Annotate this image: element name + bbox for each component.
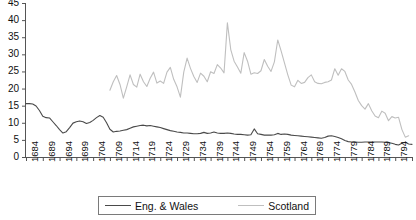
series-line-eng-wales [26, 104, 412, 145]
y-tick-label: 15 [1, 101, 19, 111]
x-tick-label: 1779 [349, 141, 358, 162]
y-tick-label: 0 [1, 152, 19, 162]
x-tick-label: 1789 [382, 141, 391, 162]
x-tick-label: 1739 [215, 141, 224, 162]
x-tick-label: 1684 [30, 141, 39, 162]
chart-legend: Eng. & WalesScotland [98, 196, 316, 215]
x-tick-label: 1734 [198, 141, 207, 162]
x-tick-label: 1729 [181, 141, 190, 162]
x-tick-label: 1714 [131, 141, 140, 162]
x-tick-label: 1689 [47, 141, 56, 162]
series-line-scotland [110, 23, 409, 137]
x-tick-label: 1769 [315, 141, 324, 162]
y-tick-label: 10 [1, 118, 19, 128]
x-tick-label: 1794 [399, 141, 408, 162]
x-tick-label: 1709 [114, 141, 123, 162]
x-tick-label: 1774 [332, 141, 341, 162]
x-tick-label: 1784 [366, 141, 375, 162]
x-tick-label: 1699 [80, 141, 89, 162]
x-tick-label: 1754 [265, 141, 274, 162]
chart-container: 051015202530354045 168416891694169917041… [0, 0, 416, 220]
y-tick-label: 45 [1, 0, 19, 8]
y-tick-label: 35 [1, 32, 19, 42]
x-tick-label: 1759 [282, 141, 291, 162]
x-tick-label: 1694 [64, 141, 73, 162]
legend-item: Scotland [238, 200, 309, 212]
x-tick-label: 1704 [97, 141, 106, 162]
y-tick-label: 30 [1, 49, 19, 59]
y-tick-label: 25 [1, 66, 19, 76]
axes [22, 3, 413, 161]
x-tick-label: 1749 [248, 141, 257, 162]
legend-line-swatch [238, 205, 264, 206]
x-tick-label: 1719 [147, 141, 156, 162]
line-chart-plot [0, 0, 416, 220]
y-tick-label: 5 [1, 135, 19, 145]
legend-label: Eng. & Wales [135, 200, 198, 212]
y-tick-label: 40 [1, 15, 19, 25]
x-tick-label: 1724 [164, 141, 173, 162]
legend-label: Scotland [268, 200, 309, 212]
legend-item: Eng. & Wales [105, 200, 198, 212]
y-tick-label: 20 [1, 84, 19, 94]
data-series-layer [26, 23, 412, 145]
x-tick-label: 1764 [299, 141, 308, 162]
legend-line-swatch [105, 205, 131, 206]
x-tick-label: 1744 [231, 141, 240, 162]
